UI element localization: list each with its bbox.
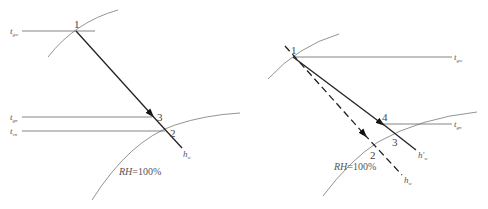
left-point-3: 3 bbox=[157, 111, 163, 123]
psychrometric-diagrams: 1 3 2 tgw tgn tvn hw RH=100% bbox=[0, 0, 488, 209]
right-label-tgn: tgn bbox=[454, 119, 462, 130]
left-label-tgw: tgw bbox=[10, 26, 19, 37]
left-point-2: 2 bbox=[170, 127, 176, 139]
left-label-hw: hw bbox=[183, 149, 192, 160]
right-label-hw-prime: h′w bbox=[418, 150, 428, 161]
right-solid-line-4-hw-prime bbox=[379, 121, 416, 150]
left-process-line-1-3 bbox=[76, 31, 151, 114]
right-solid-line-1-4 bbox=[293, 57, 381, 123]
right-point-3: 3 bbox=[392, 136, 398, 148]
right-label-rh100: RH=100% bbox=[333, 161, 376, 172]
right-label-tgw: tgw bbox=[454, 52, 463, 63]
right-upper-curve bbox=[268, 34, 339, 79]
right-dashed-line-1-2 bbox=[285, 46, 364, 134]
right-diagram: 1 4 3 2 tgw tgn h′w hw RH=100% bbox=[268, 34, 477, 196]
left-process-line-3-hw bbox=[149, 112, 182, 148]
right-point-4: 4 bbox=[382, 111, 388, 123]
left-label-tgn: tgn bbox=[10, 112, 18, 123]
left-label-rh100: RH=100% bbox=[118, 166, 161, 177]
left-label-tvn: tvn bbox=[10, 126, 18, 137]
left-diagram: 1 3 2 tgw tgn tvn hw RH=100% bbox=[10, 10, 240, 200]
left-point-1: 1 bbox=[74, 18, 80, 30]
left-rh100-curve bbox=[92, 113, 240, 200]
right-label-hw: hw bbox=[404, 175, 413, 186]
right-point-1: 1 bbox=[291, 44, 297, 56]
right-point-2: 2 bbox=[370, 149, 376, 161]
left-upper-curve bbox=[48, 10, 118, 57]
